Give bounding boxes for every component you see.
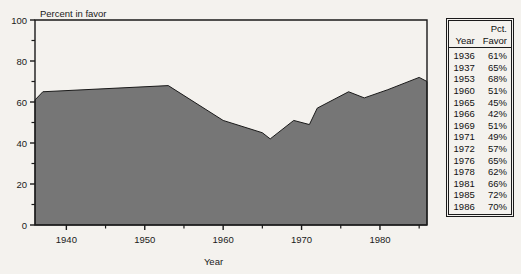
table-row: 196642% bbox=[449, 108, 511, 120]
x-tick-label: 1960 bbox=[213, 234, 234, 245]
table-row: 198572% bbox=[449, 189, 511, 201]
cell-year: 1965 bbox=[449, 97, 479, 109]
cell-pct-favor: 68% bbox=[479, 73, 511, 85]
cell-year: 1976 bbox=[449, 155, 479, 167]
cell-year: 1966 bbox=[449, 108, 479, 120]
area-series bbox=[35, 77, 427, 225]
table-row: 193661% bbox=[449, 48, 511, 62]
cell-year: 1985 bbox=[449, 189, 479, 201]
percent-favor-table: Pct. Year Favor 193661%193765%195368%196… bbox=[449, 23, 511, 213]
table-row: 195368% bbox=[449, 73, 511, 85]
cell-year: 1972 bbox=[449, 143, 479, 155]
y-tick-label: 0 bbox=[0, 220, 27, 231]
x-tick-label: 1950 bbox=[134, 234, 155, 245]
table-row: 193765% bbox=[449, 62, 511, 74]
header-blank bbox=[449, 23, 479, 35]
cell-year: 1978 bbox=[449, 166, 479, 178]
cell-pct-favor: 65% bbox=[479, 155, 511, 167]
header-favor: Favor bbox=[479, 35, 511, 48]
data-table-inner: Pct. Year Favor 193661%193765%195368%196… bbox=[448, 20, 512, 215]
table-row: 196051% bbox=[449, 85, 511, 97]
table-header-row-1: Pct. bbox=[449, 23, 511, 35]
cell-pct-favor: 51% bbox=[479, 85, 511, 97]
cell-pct-favor: 51% bbox=[479, 120, 511, 132]
table-row: 197257% bbox=[449, 143, 511, 155]
cell-year: 1971 bbox=[449, 131, 479, 143]
cell-pct-favor: 49% bbox=[479, 131, 511, 143]
x-tick-label: 1940 bbox=[56, 234, 77, 245]
header-pct: Pct. bbox=[479, 23, 511, 35]
x-axis-title: Year bbox=[0, 256, 427, 267]
y-axis-caption: Percent in favor bbox=[40, 8, 107, 19]
table-row: 198670% bbox=[449, 201, 511, 213]
y-tick-label: 60 bbox=[0, 97, 27, 108]
table-body: 193661%193765%195368%196051%196545%19664… bbox=[449, 48, 511, 213]
cell-pct-favor: 66% bbox=[479, 178, 511, 190]
table-row: 197665% bbox=[449, 155, 511, 167]
cell-year: 1953 bbox=[449, 73, 479, 85]
cell-year: 1960 bbox=[449, 85, 479, 97]
cell-year: 1981 bbox=[449, 178, 479, 190]
cell-year: 1937 bbox=[449, 62, 479, 74]
y-tick-label: 20 bbox=[0, 179, 27, 190]
cell-pct-favor: 57% bbox=[479, 143, 511, 155]
cell-year: 1986 bbox=[449, 201, 479, 213]
table-row: 197149% bbox=[449, 131, 511, 143]
cell-pct-favor: 65% bbox=[479, 62, 511, 74]
cell-pct-favor: 70% bbox=[479, 201, 511, 213]
cell-pct-favor: 62% bbox=[479, 166, 511, 178]
cell-pct-favor: 72% bbox=[479, 189, 511, 201]
table-row: 198166% bbox=[449, 178, 511, 190]
header-year: Year bbox=[449, 35, 479, 48]
cell-pct-favor: 42% bbox=[479, 108, 511, 120]
data-table: Pct. Year Favor 193661%193765%195368%196… bbox=[446, 18, 514, 217]
table-header: Pct. Year Favor bbox=[449, 23, 511, 48]
table-row: 196951% bbox=[449, 120, 511, 132]
cell-pct-favor: 61% bbox=[479, 48, 511, 62]
table-row: 197862% bbox=[449, 166, 511, 178]
cell-year: 1969 bbox=[449, 120, 479, 132]
table-header-row-2: Year Favor bbox=[449, 35, 511, 48]
cell-pct-favor: 45% bbox=[479, 97, 511, 109]
chart-figure: Percent in favor 020406080100 1940195019… bbox=[0, 0, 521, 274]
cell-year: 1936 bbox=[449, 48, 479, 62]
y-tick-label: 100 bbox=[0, 15, 27, 26]
x-tick-label: 1980 bbox=[369, 234, 390, 245]
y-tick-label: 80 bbox=[0, 56, 27, 67]
table-row: 196545% bbox=[449, 97, 511, 109]
x-tick-label: 1970 bbox=[291, 234, 312, 245]
plot-area bbox=[0, 0, 521, 274]
y-tick-label: 40 bbox=[0, 138, 27, 149]
